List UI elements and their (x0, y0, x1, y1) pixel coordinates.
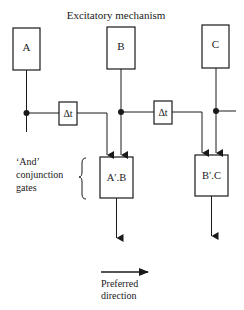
delay-1: Δt (59, 102, 77, 125)
excitatory-mechanism-diagram: Excitatory mechanism A B C Δt Δt A′.B (0, 0, 244, 310)
delay-2: Δt (154, 101, 172, 124)
gate-ab-label: A′.B (107, 172, 127, 183)
gate-bc-label: B′.C (202, 170, 221, 181)
line-delay2-to-gate2 (172, 112, 202, 153)
annotation-line1: ‘And’ (16, 156, 40, 167)
receptor-a: A (13, 28, 40, 70)
annotation-line2: conjunction (16, 169, 63, 180)
gate-bc: B′.C (195, 155, 228, 196)
receptor-c: C (202, 25, 229, 68)
diagram-title: Excitatory mechanism (67, 9, 166, 21)
line-delay1-to-gate1 (77, 113, 107, 155)
brace-icon (79, 158, 86, 199)
receptor-b-label: B (117, 40, 124, 52)
receptor-a-label: A (23, 41, 31, 53)
delay-1-label: Δt (63, 108, 72, 119)
preferred-line2: direction (101, 290, 137, 301)
receptor-b: B (107, 27, 135, 69)
gate-ab: A′.B (100, 157, 133, 198)
delay-2-label: Δt (158, 107, 167, 118)
receptor-c-label: C (212, 38, 219, 50)
preferred-line1: Preferred (101, 278, 138, 289)
annotation-line3: gates (16, 182, 37, 193)
